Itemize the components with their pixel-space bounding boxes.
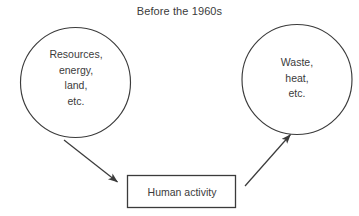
diagram-canvas: Before the 1960s Resources, energy, land…	[0, 0, 359, 216]
outputs-line-3: etc.	[243, 86, 351, 102]
inputs-circle-label: Resources, energy, land, etc.	[22, 47, 130, 109]
arrow-activity-to-outputs	[245, 135, 291, 187]
inputs-line-1: Resources,	[22, 47, 130, 63]
outputs-line-1: Waste,	[243, 55, 351, 71]
arrow-inputs-to-activity	[64, 140, 118, 182]
inputs-line-3: land,	[22, 78, 130, 94]
inputs-line-4: etc.	[22, 94, 130, 110]
outputs-line-2: heat,	[243, 71, 351, 87]
human-activity-box-label: Human activity	[127, 185, 237, 201]
outputs-circle-label: Waste, heat, etc.	[243, 55, 351, 102]
inputs-line-2: energy,	[22, 63, 130, 79]
